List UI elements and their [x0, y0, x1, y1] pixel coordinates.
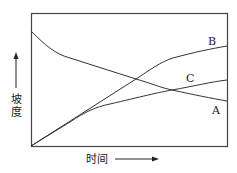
- series-c-label: C: [186, 72, 194, 85]
- series-c-line: [31, 80, 227, 146]
- x-axis-label: 时间: [86, 153, 108, 166]
- series-b-line: [31, 46, 227, 146]
- chart: B C A 坡 度 时间: [0, 0, 237, 173]
- y-axis-label-char1: 坡: [11, 93, 22, 106]
- series-a-label: A: [211, 104, 221, 117]
- series-a-line: [31, 31, 227, 101]
- x-axis-arrow-icon: [152, 157, 159, 162]
- series-b-label: B: [208, 35, 216, 48]
- y-axis-label-char2: 度: [11, 105, 22, 119]
- y-axis-arrow-icon: [14, 52, 19, 59]
